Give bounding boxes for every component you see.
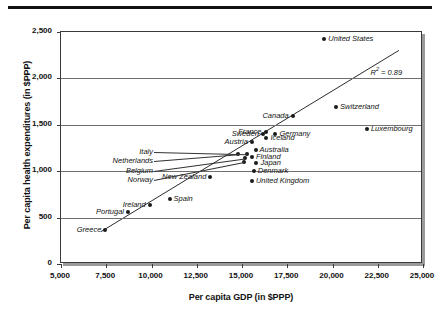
x-tick-mark [242, 264, 243, 268]
data-point-label: Netherlands [113, 157, 153, 165]
data-point-label: Spain [174, 195, 193, 203]
x-tick-label: 7,500 [80, 271, 130, 280]
x-tick-label: 10,000 [126, 271, 176, 280]
data-point-marker [254, 148, 258, 152]
r-squared-annotation: R2 = 0.89 [371, 66, 403, 77]
x-tick-mark [333, 264, 334, 268]
data-point-label: France [238, 128, 261, 136]
figure-container: Per capita health expenditures (in $PPP)… [0, 0, 440, 316]
x-tick-mark [378, 264, 379, 268]
data-point-label: Australia [260, 147, 289, 155]
x-tick-label: 17,500 [261, 271, 311, 280]
y-tick-mark [57, 218, 61, 219]
gridline [61, 125, 421, 126]
plot-shadow-bottom [63, 263, 425, 266]
data-point-label: United Kingdom [256, 178, 309, 186]
data-point-marker [365, 127, 369, 131]
data-point-label: Greece [77, 226, 102, 234]
x-tick-mark [61, 264, 62, 268]
data-point-marker [250, 140, 254, 144]
y-tick-mark [57, 125, 61, 126]
y-tick-mark [57, 78, 61, 79]
data-point-label: Norway [128, 176, 153, 184]
data-point-marker [252, 169, 256, 173]
data-point-label: Canada [262, 113, 288, 121]
data-point-label: Italy [139, 148, 153, 156]
data-point-label: Belgium [126, 167, 153, 175]
data-point-label: Germany [279, 130, 310, 138]
x-tick-mark [197, 264, 198, 268]
x-tick-label: 12,500 [171, 271, 221, 280]
data-point-label: Switzerland [340, 103, 379, 111]
data-point-marker [168, 197, 172, 201]
x-tick-mark [287, 264, 288, 268]
x-tick-label: 22,500 [352, 271, 402, 280]
trendline-svg [61, 32, 421, 262]
x-tick-mark [152, 264, 153, 268]
x-tick-label: 20,000 [307, 271, 357, 280]
x-tick-label: 25,000 [397, 271, 440, 280]
gridline [61, 78, 421, 79]
x-tick-mark [106, 264, 107, 268]
gridline [61, 218, 421, 219]
data-point-label: Luxembourg [371, 125, 413, 133]
data-point-label: Japan [260, 160, 280, 168]
x-tick-mark [423, 264, 424, 268]
data-point-label: Denmark [258, 167, 288, 175]
data-point-marker [264, 130, 268, 134]
y-tick-mark [57, 171, 61, 172]
data-point-label: Ireland [123, 201, 146, 209]
y-tick-mark [57, 32, 61, 33]
x-tick-label: 15,000 [216, 271, 266, 280]
data-point-marker [148, 203, 152, 207]
data-point-marker [126, 210, 130, 214]
plot-shadow-right [422, 34, 425, 265]
plot-area: GreecePortugalIrelandSpainNew ZealandNor… [60, 31, 422, 263]
data-point-label: United States [328, 36, 373, 44]
data-point-label: Austria [225, 138, 248, 146]
data-point-label: Portugal [96, 208, 124, 216]
gridline [61, 171, 421, 172]
x-tick-label: 5,000 [35, 271, 85, 280]
